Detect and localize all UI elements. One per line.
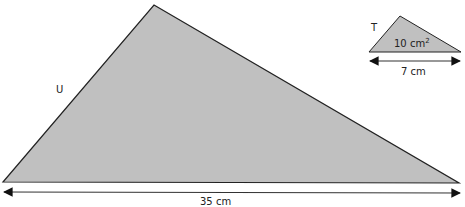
triangle-u-base-label: 35 cm — [200, 196, 231, 207]
triangle-u-label: U — [56, 84, 63, 95]
area-value: 10 cm — [394, 38, 425, 49]
triangle-t-area-label: 10 cm2 — [394, 37, 430, 49]
triangle-t-label: T — [371, 22, 377, 33]
similar-triangles-diagram — [0, 0, 465, 207]
area-exponent: 2 — [425, 37, 429, 45]
triangle-t-base-label: 7 cm — [401, 66, 426, 77]
triangle-u-base-arrow — [4, 192, 460, 193]
